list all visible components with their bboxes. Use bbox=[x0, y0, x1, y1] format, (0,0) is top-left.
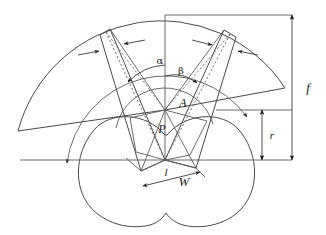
w-dimension-arrows bbox=[143, 172, 200, 186]
point-p-label: P bbox=[157, 122, 166, 136]
point-a-label: A bbox=[178, 96, 187, 110]
geometry-diagram: α β A P l W f r bbox=[0, 0, 326, 235]
apex-rays bbox=[110, 29, 224, 171]
length-l-label: l bbox=[164, 166, 167, 178]
radius-f-label: f bbox=[306, 80, 312, 95]
alpha-angle-arc bbox=[128, 65, 165, 82]
diagram-canvas: α β A P l W f r bbox=[0, 0, 326, 235]
beta-label: β bbox=[178, 65, 184, 76]
alpha-label: α bbox=[157, 55, 164, 66]
width-w-label: W bbox=[179, 174, 191, 189]
radius-r-label: r bbox=[270, 129, 275, 141]
